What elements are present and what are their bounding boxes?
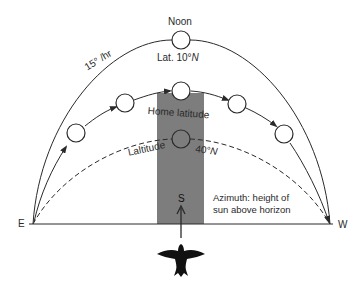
- lat-10n-n: N: [192, 52, 199, 63]
- bird-silhouette-icon: [157, 244, 205, 277]
- sun-circle-icon: [67, 124, 85, 142]
- azimuth-label-line1: Azimuth: height of: [213, 193, 289, 203]
- lat-10n-value: Lat. 10°: [157, 52, 192, 63]
- east-label: E: [18, 219, 25, 229]
- lat-10n-label: Lat. 10°N: [157, 53, 199, 63]
- sun-circle-icon: [172, 82, 190, 100]
- sun-compass-diagram: Noon 15° /hr Lat. 10°N Home latitude Lal…: [0, 0, 363, 285]
- sun-circle-icon: [172, 31, 190, 49]
- south-label: S: [178, 194, 185, 204]
- sun-circle-icon: [228, 95, 246, 113]
- sun-circle-icon: [275, 125, 293, 143]
- azimuth-label-line2: sun above horizon: [213, 205, 291, 215]
- noon-label: Noon: [168, 17, 192, 27]
- west-label: W: [338, 220, 347, 230]
- lat-40n-n: N: [210, 145, 219, 157]
- diagram-canvas: [0, 0, 363, 285]
- sun-circle-icon: [116, 94, 134, 112]
- sun-circle-icon: [172, 130, 190, 148]
